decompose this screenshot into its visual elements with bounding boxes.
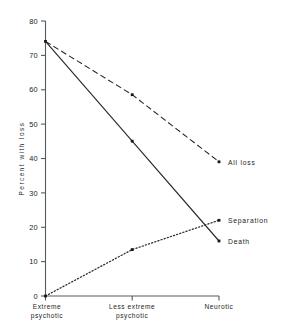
data-point-marker — [131, 140, 134, 143]
y-tick-label-70: 70 — [29, 51, 38, 60]
x-category-label-2-line2: psychotic — [116, 312, 149, 320]
data-point-marker — [131, 248, 134, 251]
y-tick-label-10: 10 — [29, 257, 38, 266]
y-tick-label-60: 60 — [29, 85, 38, 94]
chart-container: 80 70 60 50 40 30 20 10 0 Percent with l… — [0, 0, 287, 333]
data-point-marker — [218, 160, 221, 163]
x-tick-marks — [46, 296, 220, 301]
x-category-label-1-line2: psychotic — [31, 312, 64, 320]
y-tick-marks — [41, 21, 46, 296]
y-tick-label-0: 0 — [34, 292, 38, 301]
y-tick-label-30: 30 — [29, 189, 38, 198]
y-tick-label-40: 40 — [29, 154, 38, 163]
series-label-death: Death — [228, 238, 250, 245]
data-point-marker — [44, 295, 47, 298]
series-label-all-loss: All loss — [228, 159, 256, 166]
y-tick-label-50: 50 — [29, 120, 38, 129]
data-point-marker — [218, 219, 221, 222]
x-category-label-3-line1: Neurotic — [205, 303, 234, 310]
series-line-separation — [46, 220, 220, 296]
data-point-marker — [218, 240, 221, 243]
x-category-label-2-line1: Less extreme — [109, 303, 155, 310]
series-label-separation: Separation — [228, 217, 268, 225]
line-chart: 80 70 60 50 40 30 20 10 0 Percent with l… — [0, 0, 287, 333]
data-point-marker — [131, 93, 134, 96]
y-tick-label-80: 80 — [29, 17, 38, 26]
x-category-label-1-line1: Extreme — [33, 303, 61, 310]
series-line-all-loss — [46, 41, 220, 161]
y-tick-label-20: 20 — [29, 223, 38, 232]
y-axis-title: Percent with loss — [18, 122, 25, 196]
